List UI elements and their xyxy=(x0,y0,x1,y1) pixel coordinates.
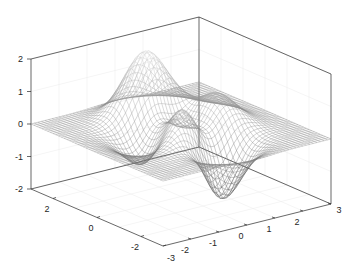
mesh-segment xyxy=(206,107,209,108)
mesh-segment xyxy=(149,132,153,138)
mesh-segment xyxy=(43,126,47,127)
mesh-segment xyxy=(266,136,269,138)
mesh-segment xyxy=(172,131,175,133)
mesh-segment xyxy=(178,134,182,136)
mesh-segment xyxy=(174,145,177,148)
mesh-segment xyxy=(148,169,152,170)
mesh-segment xyxy=(190,168,194,169)
mesh-segment xyxy=(158,179,161,180)
z-tick-label: 2 xyxy=(18,54,23,64)
y-tick xyxy=(141,236,144,237)
mesh-segment xyxy=(246,147,250,153)
mesh-segment xyxy=(314,143,318,144)
mesh-segment xyxy=(140,88,143,92)
mesh-segment xyxy=(62,126,65,127)
mesh-segment xyxy=(117,110,120,114)
mesh-segment xyxy=(280,138,284,139)
mesh-segment xyxy=(286,140,290,141)
mesh-segment xyxy=(206,130,209,133)
mesh-segment xyxy=(249,123,252,127)
mesh-segment xyxy=(300,137,303,138)
mesh-segment xyxy=(160,152,164,154)
mesh-segment xyxy=(87,136,91,137)
mesh-segment xyxy=(123,107,126,113)
mesh-segment xyxy=(223,116,226,122)
mesh-segment xyxy=(79,140,83,141)
mesh-segment xyxy=(130,139,133,145)
mesh-segment xyxy=(121,136,125,138)
mesh-segment xyxy=(237,144,241,150)
mesh-segment xyxy=(165,177,168,178)
mesh-segment xyxy=(67,122,70,123)
mesh-segment xyxy=(265,138,269,140)
mesh-segment xyxy=(201,95,204,96)
mesh-segment xyxy=(272,127,275,129)
mesh-segment xyxy=(138,169,142,170)
mesh-segment xyxy=(146,166,150,167)
mesh-segment xyxy=(239,168,242,170)
mesh-segment xyxy=(53,125,57,126)
mesh-segment xyxy=(68,117,72,118)
mesh-segment xyxy=(112,124,115,128)
mesh-segment xyxy=(215,132,219,136)
mesh-segment xyxy=(293,130,296,131)
mesh-segment xyxy=(147,72,150,83)
mesh-segment xyxy=(184,141,187,148)
mesh-segment xyxy=(287,147,290,148)
mesh-segment xyxy=(297,145,301,146)
mesh-segment xyxy=(94,123,98,125)
mesh-segment xyxy=(62,127,66,128)
mesh-segment xyxy=(273,143,277,145)
mesh-segment xyxy=(67,121,71,122)
mesh-segment xyxy=(108,112,111,113)
mesh-segment xyxy=(191,85,195,86)
mesh-segment xyxy=(300,137,304,138)
mesh-segment xyxy=(281,129,284,130)
mesh-segment xyxy=(74,137,78,138)
mesh-segment xyxy=(72,115,75,116)
mesh-segment xyxy=(79,142,82,143)
mesh-segment xyxy=(158,159,161,160)
mesh-segment xyxy=(191,105,195,110)
mesh-segment xyxy=(147,55,150,60)
mesh-segment xyxy=(181,174,185,175)
mesh-segment xyxy=(73,140,76,141)
mesh-segment xyxy=(149,168,152,169)
mesh-segment xyxy=(118,157,122,158)
mesh-segment xyxy=(83,128,87,129)
mesh-segment xyxy=(303,128,307,129)
mesh-segment xyxy=(164,158,168,159)
mesh-segment xyxy=(78,126,82,127)
mesh-segment xyxy=(144,163,147,164)
mesh-segment xyxy=(42,121,46,122)
mesh-segment xyxy=(54,131,57,132)
mesh-segment xyxy=(126,160,129,161)
mesh-segment xyxy=(198,93,201,94)
mesh-segment xyxy=(271,140,275,142)
mesh-segment xyxy=(151,171,154,172)
mesh-segment xyxy=(195,94,198,95)
mesh-segment xyxy=(113,116,116,120)
mesh-segment xyxy=(71,118,75,119)
mesh-segment xyxy=(54,122,57,123)
mesh-segment xyxy=(77,129,80,130)
mesh-segment xyxy=(181,176,185,177)
mesh-segment xyxy=(259,123,262,125)
mesh-segment xyxy=(212,90,215,91)
mesh-segment xyxy=(189,84,193,85)
mesh-segment xyxy=(148,140,152,147)
mesh-segment xyxy=(226,118,230,122)
mesh-segment xyxy=(182,86,185,87)
mesh-segment xyxy=(179,103,182,109)
mesh-segment xyxy=(209,133,212,138)
mesh-segment xyxy=(288,126,292,127)
mesh-segment xyxy=(259,109,263,110)
mesh-segment xyxy=(88,144,92,145)
mesh-segment xyxy=(77,128,81,129)
mesh-segment xyxy=(104,117,107,118)
mesh-segment xyxy=(260,130,264,131)
mesh-segment xyxy=(259,138,263,141)
mesh-segment xyxy=(304,143,308,144)
mesh-segment xyxy=(156,154,160,156)
mesh-segment xyxy=(269,133,273,134)
